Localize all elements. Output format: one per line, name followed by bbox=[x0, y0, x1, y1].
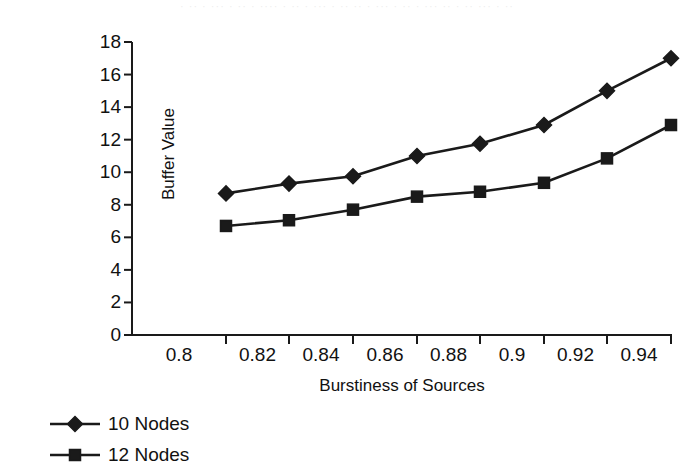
data-point-marker bbox=[600, 83, 615, 98]
data-point-marker bbox=[537, 118, 552, 133]
x-tick-label: 0.94 bbox=[621, 344, 658, 366]
chart-figure: · ·· · ··· · ·· · ···· · ·· · ··· · ·· ·… bbox=[0, 0, 694, 475]
data-point-marker bbox=[346, 169, 361, 184]
plot-area: Buffer Value Burstiness of Sources 02468… bbox=[132, 42, 672, 335]
legend-item-2: 12 Nodes bbox=[48, 439, 189, 470]
axis-lines bbox=[132, 42, 672, 335]
data-point-marker bbox=[348, 204, 359, 215]
data-point-marker bbox=[412, 191, 423, 202]
x-tick-label: 0.82 bbox=[239, 344, 276, 366]
data-point-marker bbox=[475, 186, 486, 197]
y-tick-label: 14 bbox=[100, 96, 121, 118]
data-point-marker bbox=[602, 153, 613, 164]
x-tick-label: 0.8 bbox=[166, 344, 192, 366]
data-point-marker bbox=[664, 51, 679, 66]
y-tick-label: 12 bbox=[100, 129, 121, 151]
x-tick-label: 0.92 bbox=[557, 344, 594, 366]
x-tick-label: 0.88 bbox=[430, 344, 467, 366]
data-point-marker bbox=[284, 215, 295, 226]
legend-label: 10 Nodes bbox=[108, 413, 189, 435]
data-point-marker bbox=[221, 220, 232, 231]
x-tick-label: 0.86 bbox=[367, 344, 404, 366]
x-tick-marks bbox=[226, 335, 671, 344]
data-point-marker bbox=[666, 120, 677, 131]
data-point-marker bbox=[219, 186, 234, 201]
y-tick-label: 2 bbox=[110, 291, 121, 313]
legend-label: 12 Nodes bbox=[108, 444, 189, 466]
y-tick-marks bbox=[124, 42, 132, 335]
y-tick-label: 6 bbox=[110, 226, 121, 248]
series-layer bbox=[219, 51, 679, 232]
diamond-marker-icon bbox=[48, 414, 102, 434]
y-tick-label: 4 bbox=[110, 259, 121, 281]
data-point-marker bbox=[539, 177, 550, 188]
y-tick-label: 10 bbox=[100, 161, 121, 183]
chart-legend: 10 Nodes12 Nodes bbox=[48, 408, 189, 470]
data-point-marker bbox=[410, 148, 425, 163]
y-tick-label: 18 bbox=[100, 31, 121, 53]
data-point-marker bbox=[282, 176, 297, 191]
y-tick-label: 0 bbox=[110, 324, 121, 346]
data-point-marker bbox=[473, 136, 488, 151]
scan-artifact-top: · ·· · ··· · ·· · ···· · ·· · ··· · ·· ·… bbox=[0, 0, 694, 12]
y-tick-label: 8 bbox=[110, 194, 121, 216]
plot-svg bbox=[132, 42, 672, 335]
x-axis-title: Burstiness of Sources bbox=[132, 376, 672, 396]
series-1 bbox=[219, 51, 679, 201]
y-tick-label: 16 bbox=[100, 64, 121, 86]
x-tick-label: 0.9 bbox=[499, 344, 525, 366]
square-marker-icon bbox=[48, 445, 102, 465]
legend-item-1: 10 Nodes bbox=[48, 408, 189, 439]
x-tick-label: 0.84 bbox=[303, 344, 340, 366]
